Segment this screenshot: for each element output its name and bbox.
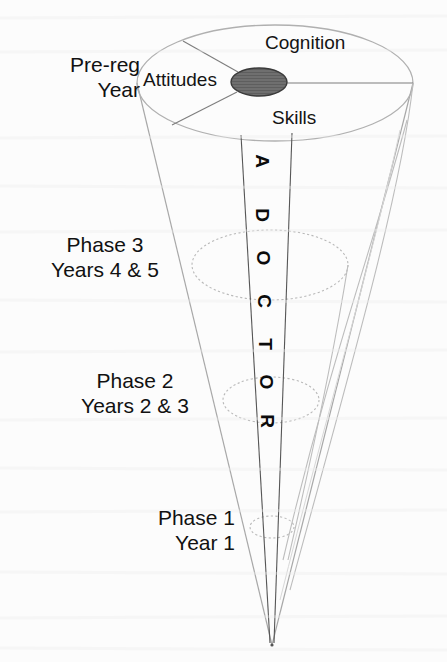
sector-label-skills: Skills bbox=[272, 107, 316, 129]
figure-canvas: Cognition Attitudes Skills A D O C T O R… bbox=[0, 0, 447, 662]
axis-letter-7: R bbox=[256, 411, 278, 431]
stage-label-phase-1: Phase 1 Year 1 bbox=[60, 505, 235, 555]
divider-upper-left bbox=[183, 41, 238, 72]
stage-label-phase-3: Phase 3 Years 4 & 5 bbox=[10, 232, 200, 282]
core-hub-ellipse bbox=[231, 68, 287, 96]
stage-label-phase-2-line1: Phase 2 bbox=[40, 368, 230, 393]
divider-lower-left bbox=[172, 92, 237, 125]
stage-label-pre-reg: Pre-reg Year bbox=[0, 52, 140, 102]
axis-letter-6: O bbox=[255, 372, 277, 392]
sector-label-cognition: Cognition bbox=[265, 32, 345, 54]
stage-label-pre-reg-line1: Pre-reg bbox=[0, 52, 140, 77]
cross-section-phase-1 bbox=[250, 516, 294, 538]
stage-label-phase-2: Phase 2 Years 2 & 3 bbox=[40, 368, 230, 418]
axis-letter-2: D bbox=[251, 205, 273, 225]
interior-curve-outer bbox=[283, 120, 407, 560]
stage-label-phase-3-line2: Years 4 & 5 bbox=[10, 257, 200, 282]
stage-label-phase-3-line1: Phase 3 bbox=[10, 232, 200, 257]
stage-label-pre-reg-line2: Year bbox=[0, 77, 140, 102]
sector-label-attitudes: Attitudes bbox=[143, 69, 217, 91]
axis-letter-4: C bbox=[253, 291, 275, 311]
stage-label-phase-2-line2: Years 2 & 3 bbox=[40, 393, 230, 418]
cone-apex bbox=[270, 643, 273, 646]
interior-curve-far bbox=[290, 83, 413, 590]
axis-letter-3: O bbox=[252, 248, 274, 268]
cone-outline bbox=[137, 83, 413, 645]
axis-letter-5: T bbox=[254, 334, 276, 354]
stage-label-phase-1-line2: Year 1 bbox=[60, 530, 235, 555]
axis-letter-1: A bbox=[251, 151, 273, 171]
stage-label-phase-1-line1: Phase 1 bbox=[60, 505, 235, 530]
cone-shading-edge bbox=[280, 130, 400, 600]
